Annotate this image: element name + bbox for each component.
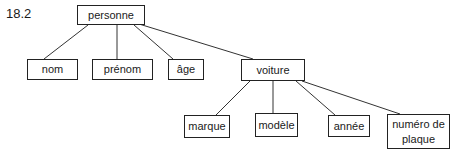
edge-voiture-annee [296,81,335,115]
edge-personne-voiture [139,24,253,59]
node-age: âge [168,59,204,80]
node-personne: personne [77,5,145,25]
node-numero-de-plaque: numéro de plaque [387,114,450,149]
node-prenom: prénom [92,59,153,80]
edge-voiture-marque [216,81,250,115]
node-marque: marque [184,115,230,138]
edge-personne-nom [44,25,88,59]
edge-personne-age [134,25,173,59]
node-nom: nom [27,59,78,80]
node-annee: année [328,115,370,137]
edge-voiture-numero [302,81,400,114]
node-voiture: voiture [241,59,305,81]
node-modele: modèle [255,113,298,137]
